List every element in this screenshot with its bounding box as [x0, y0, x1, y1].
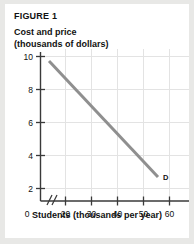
ytick-label-4: 4 — [28, 151, 33, 161]
ytick-label-8: 8 — [28, 85, 33, 95]
figure-card: FIGURE 1 Cost and price (thousands of do… — [5, 4, 189, 238]
axis-break-icon — [47, 195, 57, 205]
plot-area: 10 8 6 4 2 0 20 30 40 50 60 D — [5, 4, 189, 238]
ytick-label-10: 10 — [24, 52, 34, 62]
x-axis-title: Students (thousands per year) — [5, 210, 189, 220]
y-axis-tick-labels: 10 8 6 4 2 — [24, 52, 34, 194]
demand-curve-label: D — [163, 173, 169, 182]
vertical-gridlines — [66, 49, 170, 201]
ytick-label-2: 2 — [28, 184, 33, 194]
ytick-label-6: 6 — [28, 118, 33, 128]
